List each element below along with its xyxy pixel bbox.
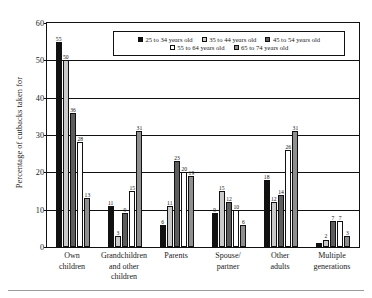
bar-value-label: 19: [189, 171, 195, 177]
legend: 25 to 34 years old35 to 44 years old45 t…: [113, 31, 345, 56]
bar[interactable]: 31: [292, 131, 298, 247]
bar-slot: 3: [115, 236, 121, 247]
bar-value-label: 23: [174, 156, 180, 162]
bar-slot: 9: [212, 213, 218, 247]
y-axis-tick-label: 20: [36, 168, 44, 177]
bar-group: 11391531: [99, 23, 151, 247]
bar[interactable]: 11: [167, 206, 173, 247]
bar[interactable]: 9: [122, 213, 128, 247]
bar[interactable]: 12: [271, 202, 277, 247]
bar-slot: 20: [181, 172, 187, 247]
bar-slot: 50: [63, 60, 69, 247]
bar-slot: 15: [129, 191, 135, 247]
bar-slot: 55: [56, 42, 62, 247]
bar[interactable]: [316, 243, 322, 247]
x-axis-category-line: children: [89, 272, 160, 283]
bar-slot: 31: [136, 131, 142, 247]
x-axis-category-line: generations: [297, 262, 368, 273]
bar[interactable]: 26: [285, 150, 291, 247]
bar-group: 91512106: [203, 23, 255, 247]
bar-value-label: 18: [264, 175, 270, 181]
bar[interactable]: 36: [70, 113, 76, 247]
bar-slot: 31: [292, 131, 298, 247]
bar[interactable]: 15: [219, 191, 225, 247]
bar-slot: 10: [233, 210, 239, 247]
bar[interactable]: 7: [337, 221, 343, 247]
y-axis-tick-label: 50: [36, 56, 44, 65]
bar[interactable]: 14: [278, 195, 284, 247]
legend-row-primary: 25 to 34 years old35 to 44 years old45 t…: [119, 36, 339, 43]
bar-value-label: 20: [181, 167, 187, 173]
bar[interactable]: 15: [129, 191, 135, 247]
legend-item[interactable]: 35 to 44 years old: [202, 36, 257, 43]
bar[interactable]: 2: [323, 240, 329, 247]
x-axis-category-line: and other: [89, 262, 160, 273]
bar-value-label: 11: [167, 201, 172, 207]
bar[interactable]: 3: [115, 236, 121, 247]
bar[interactable]: 12: [226, 202, 232, 247]
bar-slot: 12: [271, 202, 277, 247]
bar-value-label: 7: [339, 216, 342, 222]
bar[interactable]: 28: [77, 142, 83, 247]
bar[interactable]: 20: [181, 172, 187, 247]
bar[interactable]: 55: [56, 42, 62, 247]
legend-item[interactable]: 55 to 64 years old: [170, 44, 225, 51]
bar-slot: 7: [337, 221, 343, 247]
bar[interactable]: 50: [63, 60, 69, 247]
bar[interactable]: 11: [108, 206, 114, 247]
bar[interactable]: 23: [174, 161, 180, 247]
bar-value-label: 55: [56, 37, 62, 43]
bar[interactable]: 18: [264, 180, 270, 247]
bar[interactable]: 9: [212, 213, 218, 247]
bar-slot: 12: [226, 202, 232, 247]
y-axis-tick-label: 40: [36, 93, 44, 102]
bar-value-label: 13: [85, 193, 91, 199]
bar-slot: 6: [160, 225, 166, 247]
bar-slot: 3: [344, 236, 350, 247]
bar[interactable]: 19: [188, 176, 194, 247]
bar-value-label: 26: [285, 145, 291, 151]
bar[interactable]: 3: [344, 236, 350, 247]
bar-value-label: 15: [129, 186, 135, 192]
bar[interactable]: 6: [240, 225, 246, 247]
bar-group: 611232019: [151, 23, 203, 247]
bar-value-label: 10: [233, 205, 239, 211]
bar-slot: 23: [174, 161, 180, 247]
bar-slot: 28: [77, 142, 83, 247]
bar-value-label: 7: [332, 216, 335, 222]
legend-item[interactable]: 65 to 74 years old: [234, 44, 289, 51]
bar-slot: 2: [323, 240, 329, 247]
y-axis-title: Percentage of cutbacks taken for: [15, 33, 24, 233]
bar-slot: 6: [240, 225, 246, 247]
bar-slot: 18: [264, 180, 270, 247]
legend-swatch-icon: [234, 45, 239, 50]
legend-item[interactable]: 45 to 54 years old: [265, 36, 320, 43]
legend-swatch-icon: [138, 37, 143, 42]
legend-item-label: 55 to 64 years old: [177, 44, 224, 51]
bar-value-label: 2: [324, 234, 327, 240]
bar[interactable]: 7: [330, 221, 336, 247]
legend-item-label: 45 to 54 years old: [273, 36, 320, 43]
legend-swatch-icon: [265, 37, 270, 42]
bar[interactable]: 31: [136, 131, 142, 247]
bar-value-label: 36: [70, 108, 76, 114]
x-axis-category-line: Multiple: [297, 251, 368, 262]
bar-value-label: 28: [77, 137, 83, 143]
bar-slot: 13: [84, 198, 90, 247]
footer-rule: [8, 290, 364, 291]
legend-item[interactable]: 25 to 34 years old: [138, 36, 193, 43]
bar[interactable]: 6: [160, 225, 166, 247]
bar-value-label: 12: [271, 197, 277, 203]
bar-value-label: 15: [219, 186, 225, 192]
bar[interactable]: 10: [233, 210, 239, 247]
bar-value-label: 9: [124, 208, 127, 214]
bar-value-label: 31: [293, 126, 299, 132]
bar-slot: 36: [70, 113, 76, 247]
x-axis-labels: OwnchildrenGrandchildrenand otherchildre…: [46, 251, 360, 293]
legend-item-label: 25 to 34 years old: [145, 36, 192, 43]
y-axis-tick-label: 60: [36, 19, 44, 28]
bar[interactable]: 13: [84, 198, 90, 247]
bar-slot: 11: [108, 206, 114, 247]
bar-slot: 14: [278, 195, 284, 247]
bar-value-label: 3: [116, 231, 119, 237]
